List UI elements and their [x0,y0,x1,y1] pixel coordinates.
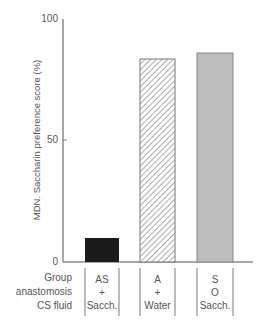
group-2-label: A + Water [140,273,175,312]
group-1-line-3: Sacch. [85,299,119,312]
group-3-label: S O Sacch. [197,273,233,312]
group-2-line-2: + [140,286,175,299]
row-label-anastomosis: anastomosis [4,285,72,298]
group-2-line-3: Water [140,299,175,312]
bar-a-water [140,59,175,262]
group-3-line-2: O [197,286,233,299]
group-3-line-1: S [197,273,233,286]
group-1-line-1: AS [85,273,119,286]
y-tick-label-100: 100 [36,13,58,24]
group-2-line-1: A [140,273,175,286]
y-tick-label-0: 0 [36,256,58,267]
group-3-line-3: Sacch. [197,299,233,312]
row-label-group: Group [4,271,72,284]
bar-as-sacch [85,238,119,262]
row-label-cs-fluid: CS fluid [4,299,72,312]
y-tick-label-50: 50 [36,134,58,145]
group-1-line-2: + [85,286,119,299]
bar-so-sacch [197,53,233,262]
group-1-label: AS + Sacch. [85,273,119,312]
